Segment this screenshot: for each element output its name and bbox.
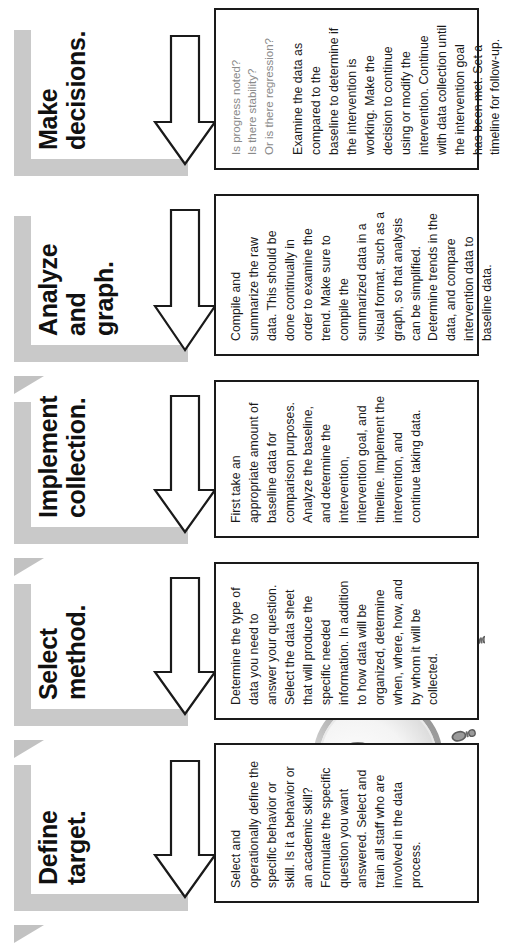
arrow-make-decisions: [152, 34, 218, 166]
step-textbox-define-target: Select and operationally define the spec…: [214, 743, 479, 903]
step-heading-implement-collection: Implement collection.: [34, 406, 90, 518]
ribbon-fold-corner: [14, 925, 44, 943]
arrow-define-target: [152, 759, 218, 899]
step-body-define-target: Select and operationally define the spec…: [228, 758, 425, 888]
step-heading-make-decisions: Make decisions.: [34, 34, 90, 150]
ribbon-bar-top: [14, 30, 31, 176]
step-heading-select-method: Select method.: [34, 588, 90, 700]
ribbon-bar-top: [14, 584, 31, 726]
step-select-method: Select method. Determine the type of dat…: [0, 554, 499, 740]
step-implement-collection: Implement collection. First take an appr…: [0, 372, 499, 558]
step-questions-make-decisions: Is progress noted? Is there stability? O…: [228, 23, 277, 155]
step-textbox-implement-collection: First take an appropriate amount of base…: [214, 380, 479, 538]
ribbon-bar-top: [14, 216, 31, 362]
arrow-analyze-and-graph: [152, 208, 218, 352]
step-define-target: Define target. Select and operationally …: [0, 735, 499, 925]
ribbon-fold-corner: [14, 740, 44, 758]
step-textbox-analyze-and-graph: Compile and summarize the raw data. This…: [214, 194, 479, 356]
ribbon-fold-corner: [14, 558, 44, 576]
ribbon-bar-top: [14, 402, 31, 544]
step-textbox-select-method: Determine the type of data you need to a…: [214, 562, 479, 720]
arrow-select-method: [152, 576, 218, 716]
step-body-implement-collection: First take an appropriate amount of base…: [228, 395, 425, 523]
step-make-decisions: Make decisions. Is progress noted? Is th…: [0, 0, 499, 190]
step-analyze-and-graph: Analyze and graph. Compile and summarize…: [0, 186, 499, 376]
step-body-make-decisions: Examine the data as compared to the base…: [290, 23, 505, 155]
step-textbox-make-decisions: Is progress noted? Is there stability? O…: [214, 8, 479, 170]
ribbon-bar-top: [14, 765, 31, 911]
step-body-select-method: Determine the type of data you need to a…: [228, 577, 443, 705]
step-heading-define-target: Define target.: [34, 769, 90, 885]
step-body-analyze-and-graph: Compile and summarize the raw data. This…: [228, 209, 497, 341]
arrow-implement-collection: [152, 394, 218, 534]
ribbon-fold-corner: [14, 376, 44, 394]
step-heading-analyze-and-graph: Analyze and graph.: [34, 220, 118, 336]
